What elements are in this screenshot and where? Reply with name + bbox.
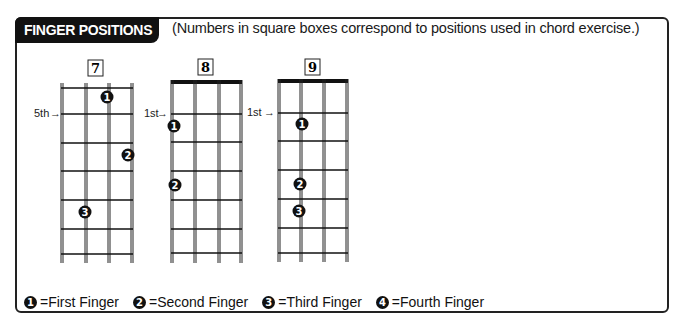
finger-dot: 1: [168, 120, 181, 133]
legend-item-second-finger: 2 =Second Finger: [133, 294, 248, 310]
finger-dot: 2: [169, 179, 182, 192]
finger-dot: 3: [79, 206, 92, 219]
finger-3-icon: 3: [262, 296, 275, 309]
nut: [278, 79, 348, 83]
legend-item-first-finger: 1 =First Finger: [24, 294, 119, 310]
svg-text:2: 2: [297, 179, 304, 190]
fretboard-diagram-7: 7 5th → 1 2 3: [34, 60, 135, 263]
finger-4-icon: 4: [376, 296, 389, 309]
arrow-icon: →: [157, 107, 168, 119]
finger-dot: 2: [294, 178, 307, 191]
legend-item-fourth-finger: 4 =Fourth Finger: [376, 294, 484, 310]
legend-label: =Second Finger: [149, 294, 248, 310]
svg-text:1: 1: [299, 119, 306, 130]
fretboard-diagram-9: 9 1st → 1 2 3: [247, 59, 348, 262]
legend-label: =Third Finger: [278, 294, 362, 310]
position-label: 1st: [247, 106, 262, 118]
svg-text:3: 3: [296, 206, 303, 217]
arrow-icon: →: [264, 106, 275, 118]
nut: [171, 80, 242, 84]
position-number: 7: [91, 61, 100, 76]
legend-label: =First Finger: [40, 294, 119, 310]
arrow-icon: →: [50, 107, 61, 119]
position-number: 9: [308, 60, 317, 75]
fretboard-diagrams: 7 5th → 1 2 3 8: [0, 0, 683, 334]
svg-text:3: 3: [82, 207, 89, 218]
finger-dot: 3: [293, 205, 306, 218]
finger-dot: 1: [101, 91, 114, 104]
svg-text:1: 1: [171, 121, 178, 132]
fretboard-diagram-8: 8 1st → 1 2: [144, 59, 242, 263]
legend-label: =Fourth Finger: [392, 294, 484, 310]
finger-dot: 2: [122, 149, 135, 162]
svg-text:2: 2: [172, 180, 179, 191]
finger-2-icon: 2: [133, 296, 146, 309]
finger-legend: 1 =First Finger 2 =Second Finger 3 =Thir…: [24, 294, 498, 310]
svg-text:2: 2: [125, 150, 132, 161]
finger-1-icon: 1: [24, 296, 37, 309]
position-label: 5th: [34, 107, 49, 119]
finger-dot: 1: [296, 118, 309, 131]
svg-text:1: 1: [104, 92, 111, 103]
position-number: 8: [201, 60, 210, 75]
legend-item-third-finger: 3 =Third Finger: [262, 294, 362, 310]
